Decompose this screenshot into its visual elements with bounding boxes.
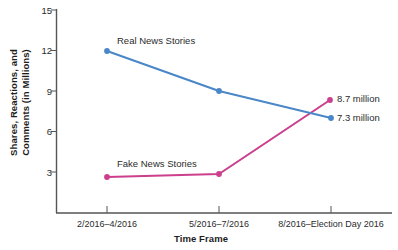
x-tick-label-2: 5/2016–7/2016 bbox=[179, 219, 259, 229]
data-point-fake-news-3 bbox=[327, 97, 333, 103]
data-point-real-news-3 bbox=[328, 115, 334, 121]
data-point-real-news-2 bbox=[216, 88, 222, 94]
plot-area bbox=[0, 0, 398, 250]
x-tick-label-3: 8/2016–Election Day 2016 bbox=[262, 219, 398, 229]
value-label-real-news-end: 7.3 million bbox=[337, 112, 380, 123]
data-point-fake-news-2 bbox=[216, 171, 222, 177]
series-annotation-fake-news: Fake News Stories bbox=[117, 158, 197, 169]
data-point-real-news-1 bbox=[104, 48, 110, 54]
series-annotation-real-news: Real News Stories bbox=[117, 35, 195, 46]
line-chart: Shares, Reactions, and Comments (in Mill… bbox=[0, 0, 398, 250]
data-point-fake-news-1 bbox=[104, 174, 110, 180]
x-tick-label-1: 2/2016–4/2016 bbox=[67, 219, 147, 229]
x-axis-title: Time Frame bbox=[56, 233, 346, 244]
series-line-real-news bbox=[107, 51, 331, 118]
value-label-fake-news-end: 8.7 million bbox=[337, 93, 380, 104]
